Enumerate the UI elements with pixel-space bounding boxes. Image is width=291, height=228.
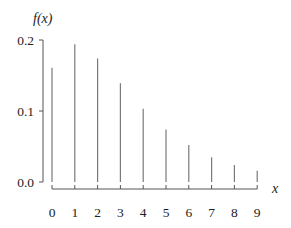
x-axis-label: x [271,181,279,196]
x-axis: 0123456789 [49,185,261,220]
y-axis: 0.00.10.2 [17,33,43,190]
x-tick-label: 0 [49,205,56,220]
y-tick-label: 0.2 [17,33,34,48]
x-tick-label: 6 [185,205,192,220]
x-tick-label: 8 [231,205,238,220]
stem-plot: 0.00.10.2 0123456789 f(x) x [0,0,291,228]
y-axis-label: f(x) [33,11,53,27]
data-stems [52,44,257,182]
x-tick-label: 7 [208,205,215,220]
y-tick-label: 0.0 [17,175,34,190]
y-tick-label: 0.1 [17,104,34,119]
x-tick-label: 1 [71,205,78,220]
x-tick-label: 4 [140,205,147,220]
x-tick-label: 9 [254,205,261,220]
chart-container: 0.00.10.2 0123456789 f(x) x [0,0,291,228]
x-tick-label: 2 [94,205,101,220]
x-tick-label: 5 [163,205,170,220]
x-tick-label: 3 [117,205,124,220]
